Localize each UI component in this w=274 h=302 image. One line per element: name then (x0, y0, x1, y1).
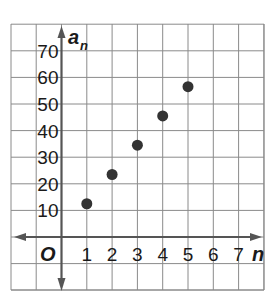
x-tick-label: 5 (183, 244, 194, 265)
y-axis-arrow-down-icon (58, 278, 66, 291)
x-tick-label: 2 (107, 244, 118, 265)
x-tick-label: 3 (132, 244, 143, 265)
data-point (183, 81, 194, 92)
y-axis-label: a (68, 26, 79, 48)
x-tick-label: 7 (233, 244, 244, 265)
x-axis-arrow-right-icon (250, 233, 262, 241)
data-point (132, 140, 143, 151)
coordinate-plane: 123456710203040506070 a n n O (0, 0, 274, 302)
y-tick-label: 20 (37, 174, 58, 195)
x-tick-label: 1 (82, 244, 93, 265)
x-axis-label: n (252, 243, 264, 265)
data-point (81, 198, 92, 209)
x-tick-label: 6 (208, 244, 219, 265)
y-axis-arrow-up-icon (58, 26, 66, 38)
origin-label: O (40, 243, 56, 265)
data-point (157, 110, 168, 121)
data-point (107, 169, 118, 180)
y-axis-label-subscript: n (80, 38, 88, 53)
y-tick-label: 10 (37, 200, 58, 221)
y-tick-label: 60 (37, 67, 58, 88)
y-tick-label: 30 (37, 147, 58, 168)
y-tick-label: 50 (37, 94, 58, 115)
axis-labels: a n n O (40, 26, 264, 265)
x-tick-label: 4 (157, 244, 168, 265)
y-tick-label: 70 (37, 41, 58, 62)
y-tick-label: 40 (37, 121, 58, 142)
x-axis-arrow-left-icon (14, 233, 26, 241)
